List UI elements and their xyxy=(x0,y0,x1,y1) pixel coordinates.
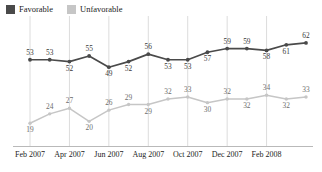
data-label: 59 xyxy=(243,38,250,46)
x-axis-line xyxy=(13,146,313,147)
data-label: 32 xyxy=(223,88,230,96)
data-label: 56 xyxy=(145,43,152,51)
data-label: 34 xyxy=(263,84,270,92)
data-label: 59 xyxy=(223,38,230,46)
data-point[interactable] xyxy=(107,108,110,111)
square-swatch-icon xyxy=(6,5,15,14)
data-label: 30 xyxy=(204,106,211,114)
data-point[interactable] xyxy=(28,58,32,62)
data-point[interactable] xyxy=(225,97,228,100)
data-point[interactable] xyxy=(48,112,51,115)
legend-label-favorable: Favorable xyxy=(19,5,53,14)
data-label: 32 xyxy=(283,102,290,110)
plot-svg xyxy=(0,16,322,146)
data-label: 33 xyxy=(302,86,309,94)
x-tick-label: Apr 2007 xyxy=(54,150,84,160)
data-label: 20 xyxy=(85,124,92,132)
data-point[interactable] xyxy=(265,94,268,97)
data-point[interactable] xyxy=(127,103,130,106)
data-label: 61 xyxy=(283,48,290,56)
data-point[interactable] xyxy=(166,97,169,100)
data-label: 29 xyxy=(145,108,152,116)
data-point[interactable] xyxy=(68,107,71,110)
x-tick-label: Oct 2007 xyxy=(173,150,203,160)
data-label: 33 xyxy=(184,86,191,94)
legend-label-unfavorable: Unfavorable xyxy=(80,5,122,14)
data-label: 32 xyxy=(243,102,250,110)
data-point[interactable] xyxy=(225,47,229,51)
data-point[interactable] xyxy=(146,52,150,56)
data-point[interactable] xyxy=(87,54,91,58)
data-label: 49 xyxy=(105,70,112,78)
data-label: 19 xyxy=(26,126,33,134)
data-label: 53 xyxy=(46,49,53,57)
data-label: 32 xyxy=(164,88,171,96)
x-tick-label: Feb 2007 xyxy=(15,150,45,160)
data-label: 52 xyxy=(125,65,132,73)
x-tick-label: Aug 2007 xyxy=(132,150,164,160)
chart-legend: Favorable Unfavorable xyxy=(6,3,122,15)
legend-item-unfavorable[interactable]: Unfavorable xyxy=(67,5,122,14)
line-chart: Favorable Unfavorable 535352554952565353… xyxy=(0,0,322,172)
data-point[interactable] xyxy=(245,47,249,51)
x-tick-label: Feb 2008 xyxy=(252,150,282,160)
data-label: 53 xyxy=(164,63,171,71)
x-tick-label: Dec 2007 xyxy=(212,150,243,160)
data-label: 24 xyxy=(46,103,53,111)
data-label: 62 xyxy=(302,32,309,40)
plot-area xyxy=(0,16,322,146)
data-point[interactable] xyxy=(304,41,308,45)
data-point[interactable] xyxy=(48,58,52,62)
data-label: 27 xyxy=(66,97,73,105)
data-point[interactable] xyxy=(304,95,307,98)
data-label: 52 xyxy=(66,65,73,73)
x-axis-labels: Feb 2007Apr 2007Jun 2007Aug 2007Oct 2007… xyxy=(0,150,322,166)
data-label: 55 xyxy=(85,45,92,53)
data-label: 26 xyxy=(105,99,112,107)
legend-item-favorable[interactable]: Favorable xyxy=(6,5,53,14)
data-point[interactable] xyxy=(186,95,189,98)
data-label: 57 xyxy=(204,55,211,63)
square-swatch-icon xyxy=(67,5,76,14)
data-label: 53 xyxy=(184,63,191,71)
data-label: 58 xyxy=(263,53,270,61)
data-label: 53 xyxy=(26,49,33,57)
x-tick-label: Jun 2007 xyxy=(94,150,123,160)
data-label: 29 xyxy=(125,94,132,102)
